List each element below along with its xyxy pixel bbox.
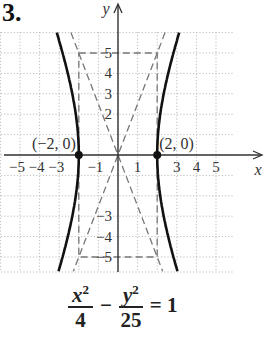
vertex-label-left: (−2, 0) [32, 135, 76, 153]
numerator-x: x2 [68, 280, 93, 308]
equation: x2 4 − y2 25 = 1 [64, 280, 181, 331]
y-tick-label: 3 [105, 86, 113, 102]
y-tick-label: −3 [96, 208, 112, 224]
x-tick-label: −5 [9, 159, 25, 175]
y-tick-label: 5 [105, 45, 113, 61]
vertex-point [75, 151, 83, 159]
x-tick-label: 4 [193, 159, 201, 175]
numerator-y: y2 [119, 280, 143, 308]
exponent: 2 [132, 282, 139, 297]
x-tick-label: 3 [173, 159, 181, 175]
fraction-y-term: y2 25 [119, 280, 143, 331]
vertex-label-right: (2, 0) [159, 135, 194, 153]
exponent: 2 [83, 282, 90, 297]
y-tick-label: −5 [96, 249, 112, 265]
fraction-x-term: x2 4 [68, 280, 93, 331]
x-tick-label: 1 [134, 159, 142, 175]
asymptote-line [71, 33, 163, 272]
x-tick-label: −3 [48, 159, 64, 175]
denominator-4: 4 [75, 308, 86, 331]
asymptote-line [73, 33, 165, 272]
minus-operator: − [100, 293, 112, 318]
hyperbola-graph: (−2, 0)(2, 0)−5−4−3−113455432−3−4−5yx [0, 0, 271, 280]
vertex-point [153, 151, 161, 159]
equals-one: = 1 [150, 293, 178, 318]
denominator-25: 25 [120, 308, 141, 331]
x-tick-label: −1 [87, 159, 103, 175]
y-tick-label: −4 [96, 229, 112, 245]
y-tick-label: 2 [105, 106, 113, 122]
y-axis-label: y [100, 0, 110, 18]
var-y: y [123, 283, 132, 307]
var-x: x [72, 283, 83, 307]
x-tick-label: −4 [29, 159, 45, 175]
x-axis-label: x [253, 161, 261, 178]
x-tick-label: 5 [212, 159, 220, 175]
y-tick-label: 4 [105, 65, 113, 81]
